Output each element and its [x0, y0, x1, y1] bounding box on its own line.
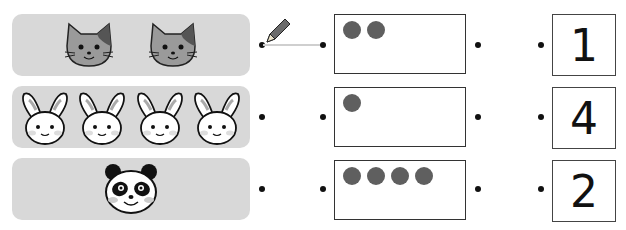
row-3-box-left-dot[interactable] [320, 186, 326, 192]
row-2-box-left-dot[interactable] [320, 114, 326, 120]
cat-face-icon [145, 20, 201, 70]
number-box-row-2: 4 [552, 87, 616, 149]
counters [343, 21, 385, 39]
row-1-number-dot[interactable] [538, 42, 544, 48]
number-box-row-1: 1 [552, 14, 616, 76]
row-2-number-dot[interactable] [538, 114, 544, 120]
rabbit-face-icon [190, 88, 244, 146]
example-connection-line [263, 44, 323, 46]
row-3-animal-dot[interactable] [259, 186, 265, 192]
row-3-number-dot[interactable] [538, 186, 544, 192]
number-label: 1 [570, 20, 598, 71]
cat-face-icon [61, 20, 117, 70]
row-3-box-right-dot[interactable] [475, 186, 481, 192]
counter-box-row-1 [334, 14, 466, 74]
animal-panel-rabbits [12, 86, 250, 148]
row-1-box-right-dot[interactable] [475, 42, 481, 48]
row-1-box-left-dot[interactable] [320, 42, 326, 48]
counters [343, 167, 433, 185]
counter-dot [415, 167, 433, 185]
counter-dot [343, 94, 361, 112]
row-2-animal-dot[interactable] [259, 114, 265, 120]
counter-dot [343, 167, 361, 185]
animal-panel-cats [12, 14, 250, 76]
counter-box-row-3 [334, 160, 466, 220]
number-label: 4 [570, 93, 598, 144]
counter-box-row-2 [334, 87, 466, 147]
rabbit-face-icon [133, 88, 187, 146]
pencil-icon [265, 18, 291, 44]
number-label: 2 [570, 166, 598, 217]
counter-dot [367, 167, 385, 185]
number-box-row-3: 2 [552, 160, 616, 222]
counter-dot [391, 167, 409, 185]
rabbit-face-icon [18, 88, 72, 146]
counters [343, 94, 361, 112]
counter-dot [367, 21, 385, 39]
row-2-box-right-dot[interactable] [475, 114, 481, 120]
counter-dot [343, 21, 361, 39]
rabbit-face-icon [75, 88, 129, 146]
panda-face-icon [101, 162, 161, 216]
animal-panel-panda [12, 158, 250, 220]
